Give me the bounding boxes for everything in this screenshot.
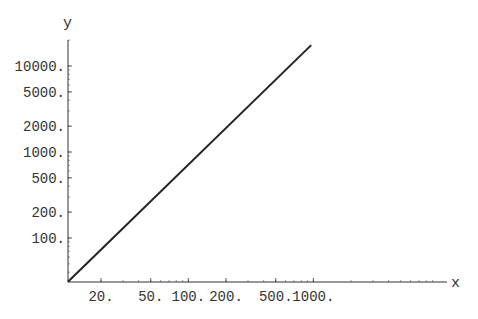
y-axis-label: y: [63, 15, 72, 32]
y-tick-label: 200.: [31, 205, 65, 221]
x-tick-label: 100.: [172, 289, 206, 305]
x-tick-label: 1000.: [292, 289, 334, 305]
log-log-chart: 20.50.100.200.500.1000. 100.200.500.1000…: [0, 0, 478, 319]
y-tick-label: 5000.: [23, 85, 65, 101]
x-tick-label: 50.: [138, 289, 163, 305]
minor-ticks: [68, 40, 433, 282]
x-tick-label: 20.: [88, 289, 113, 305]
y-tick-label: 10000.: [15, 59, 65, 75]
y-tick-labels: 100.200.500.1000.2000.5000.10000.: [15, 59, 65, 247]
series-line: [68, 45, 311, 282]
y-tick-label: 1000.: [23, 145, 65, 161]
data-series: [68, 45, 311, 282]
y-tick-label: 100.: [31, 231, 65, 247]
major-ticks: [68, 66, 313, 282]
x-tick-label: 200.: [209, 289, 243, 305]
y-tick-label: 500.: [31, 171, 65, 187]
x-axis-label: x: [451, 275, 460, 292]
x-tick-label: 500.: [259, 289, 293, 305]
x-tick-labels: 20.50.100.200.500.1000.: [88, 289, 334, 305]
y-tick-label: 2000.: [23, 119, 65, 135]
